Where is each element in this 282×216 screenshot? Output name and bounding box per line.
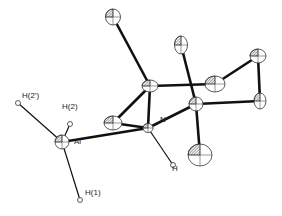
atom-c9	[188, 144, 212, 166]
bond-c5-c8	[196, 101, 260, 104]
atom-c4	[175, 36, 188, 54]
atom-al	[55, 135, 69, 149]
label-al: Al	[74, 138, 81, 146]
atom-c7	[250, 49, 266, 63]
label-h2: H(2)	[62, 103, 78, 111]
label-h1: H(1)	[85, 189, 101, 197]
atom-c8	[254, 93, 266, 109]
atom-c6	[205, 76, 225, 92]
bonds-layer	[18, 17, 260, 200]
atom-c1	[104, 116, 122, 130]
atom-h2p	[16, 101, 21, 106]
label-h2-prime: H(2')	[22, 92, 39, 100]
atom-h1	[78, 198, 83, 203]
label-h: H	[172, 165, 178, 173]
atom-c3	[106, 9, 121, 25]
bond-n-hn	[148, 128, 173, 165]
label-n: N	[160, 116, 166, 124]
bond-n-c5	[148, 104, 196, 128]
bond-al-h2p	[18, 103, 62, 142]
ortep-diagram	[0, 0, 282, 216]
atom-h2	[68, 122, 73, 127]
atom-n	[143, 124, 153, 133]
bond-c2-c3	[113, 17, 150, 86]
molecular-structure-figure: H(2') H(2) Al N H H(1)	[0, 0, 282, 216]
atoms-layer	[16, 9, 267, 203]
atom-c5	[189, 97, 203, 111]
atom-c2	[142, 80, 158, 92]
bond-al-h1	[62, 142, 80, 200]
